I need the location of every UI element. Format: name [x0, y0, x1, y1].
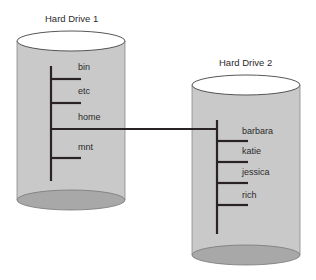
- dir-label-barbara: barbara: [242, 126, 273, 136]
- dir-label-home: home: [78, 112, 101, 122]
- hard-drive-2-title: Hard Drive 2: [219, 57, 272, 68]
- dir-label-rich: rich: [242, 190, 257, 200]
- diagram-canvas: [0, 0, 316, 280]
- hard-drive-1-title: Hard Drive 1: [45, 13, 98, 24]
- dir-label-katie: katie: [242, 146, 261, 156]
- dir-label-etc: etc: [78, 86, 90, 96]
- hard-drive-1-cylinder: [17, 31, 125, 210]
- dir-label-mnt: mnt: [78, 142, 93, 152]
- dir-label-bin: bin: [78, 62, 90, 72]
- dir-label-jessica: jessica: [242, 167, 270, 177]
